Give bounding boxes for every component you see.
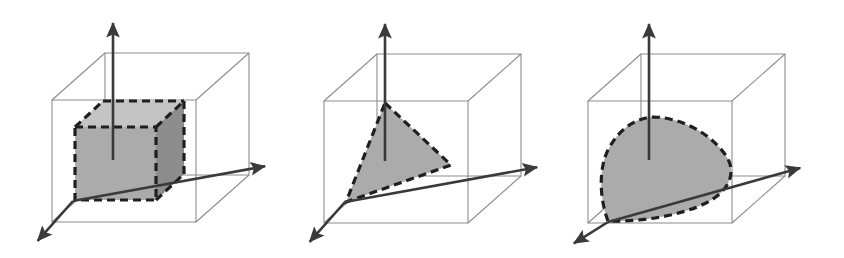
three-panel-convex-sets-figure <box>0 0 844 258</box>
figure-root: Three convex sets inscribed in a 3D coor… <box>0 0 844 258</box>
